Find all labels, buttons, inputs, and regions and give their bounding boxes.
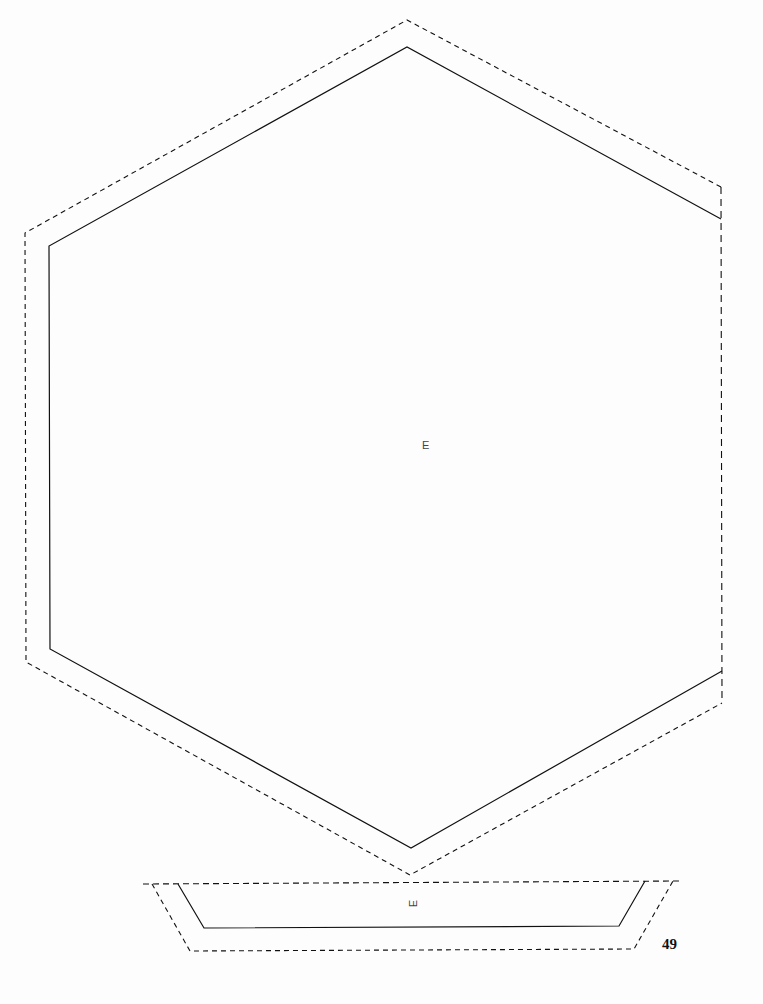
cut-template-drawing [0,0,763,1004]
hexagon-label: E [422,440,429,451]
page-number: 49 [662,937,677,952]
hexagon-dashed-right-edge [721,187,722,703]
trapezoid-dashed-outline [152,881,673,951]
trapezoid-dashed-top [143,881,681,884]
trapezoid-label: E [408,900,419,907]
hexagon-dashed-outline [25,20,722,875]
hexagon-solid-outline [49,47,722,848]
template-page: E E 49 [0,0,763,1004]
